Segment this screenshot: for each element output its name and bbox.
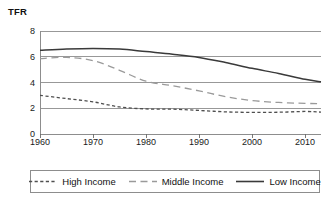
tfr-line-chart: TFR 02468 196019701980199020002010 High …	[0, 0, 333, 205]
series-lines	[40, 48, 321, 112]
x-tick-label-1980: 1980	[126, 137, 166, 148]
legend-label: Middle Income	[162, 176, 224, 187]
legend-entry-middle-income[interactable]: Middle Income	[129, 176, 224, 187]
legend-swatch-solid-icon	[236, 177, 264, 186]
legend-entry-low-income[interactable]: Low Income	[236, 176, 320, 187]
y-tick-label-4: 4	[5, 78, 35, 88]
legend-label: High Income	[62, 176, 115, 187]
plot-svg	[40, 31, 321, 134]
series-line-middle-income	[40, 57, 321, 103]
plot-area	[40, 31, 321, 134]
legend-swatch-long-dash-icon	[129, 177, 157, 186]
gridlines	[40, 31, 321, 134]
y-tick-label-8: 8	[5, 26, 35, 36]
legend-swatch-short-dash-icon	[29, 177, 57, 186]
x-axis-tick-labels: 196019701980199020002010	[0, 137, 333, 151]
x-tick-label-1960: 1960	[20, 137, 60, 148]
legend-entry-high-income[interactable]: High Income	[29, 176, 115, 187]
y-tick-label-6: 6	[5, 52, 35, 62]
x-tick-label-1970: 1970	[73, 137, 113, 148]
y-tick-label-2: 2	[5, 103, 35, 113]
series-line-low-income	[40, 48, 321, 81]
x-tick-label-2010: 2010	[285, 137, 325, 148]
series-line-high-income	[40, 95, 321, 112]
legend-entries: High IncomeMiddle IncomeLow Income	[31, 171, 319, 192]
x-tick-label-1990: 1990	[179, 137, 219, 148]
x-tick-label-2000: 2000	[232, 137, 272, 148]
chart-legend: High IncomeMiddle IncomeLow Income	[30, 170, 320, 193]
legend-label: Low Income	[269, 176, 320, 187]
